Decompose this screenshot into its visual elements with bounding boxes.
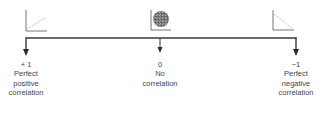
- marker-text-line: positive: [0, 79, 61, 88]
- zero-arrow: [158, 38, 163, 53]
- marker-text-line: Perfect: [261, 69, 322, 78]
- marker-text-line: No: [125, 69, 195, 78]
- positive-correlation-scatter-icon: [26, 10, 47, 31]
- correlation-scale-diagram: + 1 Perfect positive correlation 0 No co…: [0, 0, 322, 113]
- marker-text-line: correlation: [261, 88, 322, 97]
- positive-correlation-label: + 1 Perfect positive correlation: [0, 60, 61, 97]
- marker-text-line: correlation: [0, 88, 61, 97]
- negative-correlation-scatter-icon: [273, 10, 294, 30]
- positive-arrow: [23, 37, 29, 56]
- marker-value: 0: [125, 60, 195, 69]
- marker-text-line: negative: [261, 79, 322, 88]
- marker-text-line: Perfect: [0, 69, 61, 78]
- marker-text-line: correlation: [125, 79, 195, 88]
- negative-arrow: [293, 37, 299, 56]
- marker-value: + 1: [0, 60, 61, 69]
- negative-correlation-label: −1 Perfect negative correlation: [261, 60, 322, 97]
- marker-value: −1: [261, 60, 322, 69]
- no-correlation-label: 0 No correlation: [125, 60, 195, 88]
- no-correlation-scatter-icon: [151, 10, 171, 30]
